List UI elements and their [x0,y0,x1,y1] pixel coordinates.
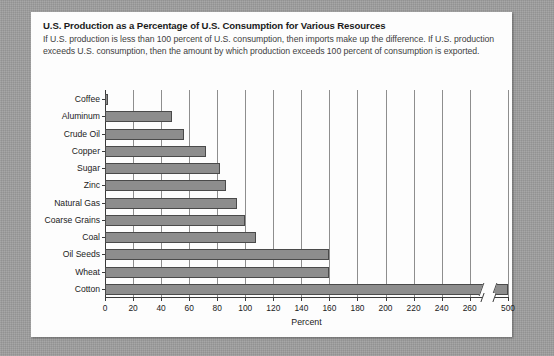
x-tick-label-260: 260 [463,303,477,313]
bar-label-wheat: Wheat [75,266,100,278]
bar-row: Cotton [105,284,508,295]
bar-row: Coarse Grains [105,215,508,226]
x-tick-label-240: 240 [435,303,449,313]
bar-label-cotton: Cotton [75,283,100,295]
figure-card: U.S. Production as a Percentage of U.S. … [31,12,512,337]
x-tick-200 [386,297,387,301]
x-tick-label-160: 160 [322,303,336,313]
bar-label-coal: Coal [82,231,100,243]
bar-natural-gas [105,198,237,209]
x-tick-label-80: 80 [213,303,222,313]
bar-coffee [105,94,108,105]
bar-label-crude-oil: Crude Oil [64,128,100,140]
bar-wheat [105,267,329,278]
bar-row: Oil Seeds [105,249,508,260]
bar-row: Crude Oil [105,129,508,140]
bar-coal [105,232,256,243]
bar-label-natural-gas: Natural Gas [54,197,100,209]
bar-row: Coffee [105,94,508,105]
bar-row: Copper [105,146,508,157]
bar-label-coarse-grains: Coarse Grains [45,214,100,226]
x-tick-40 [161,297,162,301]
bar-label-copper: Copper [72,145,100,157]
bar-row: Zinc [105,180,508,191]
bar-aluminum [105,111,172,122]
x-tick-60 [189,297,190,301]
x-tick-label-140: 140 [294,303,308,313]
axis-break-mark [481,293,497,302]
x-tick-220 [414,297,415,301]
x-tick-label-20: 20 [128,303,137,313]
x-tick-20 [133,297,134,301]
bar-copper [105,146,206,157]
bar-zinc [105,180,226,191]
bar-label-zinc: Zinc [84,179,100,191]
x-tick-label-40: 40 [156,303,165,313]
x-tick-label-500: 500 [501,303,515,313]
bar-cotton [105,284,508,295]
x-tick-label-220: 220 [407,303,421,313]
plot-area: CoffeeAluminumCrude OilCopperSugarZincNa… [105,90,508,297]
x-tick-label-60: 60 [184,303,193,313]
x-axis-line [105,297,508,298]
x-tick-label-0: 0 [103,303,108,313]
bar-row: Sugar [105,163,508,174]
x-tick-160 [329,297,330,301]
x-tick-80 [217,297,218,301]
bar-label-sugar: Sugar [77,162,100,174]
x-tick-label-100: 100 [238,303,252,313]
bar-row: Aluminum [105,111,508,122]
x-tick-240 [442,297,443,301]
bar-row: Coal [105,232,508,243]
x-tick-120 [273,297,274,301]
x-tick-260 [470,297,471,301]
x-tick-500 [508,297,509,301]
bar-oil-seeds [105,249,329,260]
x-tick-100 [245,297,246,301]
x-tick-label-200: 200 [379,303,393,313]
x-tick-140 [301,297,302,301]
gridline-500 [508,90,509,297]
bar-coarse-grains [105,215,245,226]
bar-sugar [105,163,220,174]
bar-label-coffee: Coffee [75,93,100,105]
bar-chart: CoffeeAluminumCrude OilCopperSugarZincNa… [31,12,512,337]
x-tick-180 [357,297,358,301]
bar-row: Wheat [105,267,508,278]
bar-crude-oil [105,129,184,140]
x-tick-0 [105,297,106,301]
bar-row: Natural Gas [105,198,508,209]
x-tick-label-180: 180 [350,303,364,313]
bar-label-aluminum: Aluminum [62,110,100,122]
bar-label-oil-seeds: Oil Seeds [63,248,100,260]
x-axis-title: Percent [105,317,508,327]
x-tick-label-120: 120 [266,303,280,313]
